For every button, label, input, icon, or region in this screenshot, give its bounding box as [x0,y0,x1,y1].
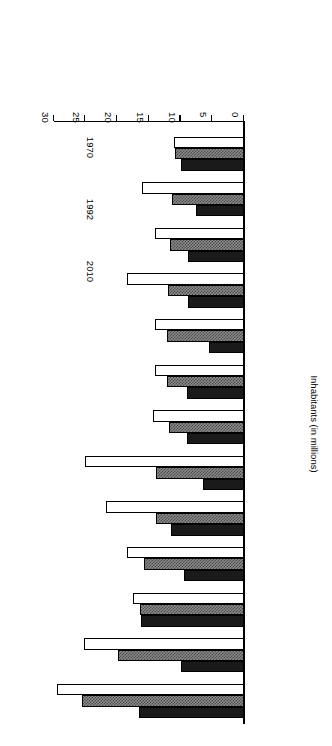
bar-group: New York [44,593,244,627]
bar-2010 [153,410,244,421]
legend-swatch-2010 [84,290,100,306]
bar-1970 [188,296,244,307]
bar-1970 [188,251,244,262]
bar-1970 [187,433,244,444]
bar-1992 [167,376,244,387]
legend: 2010 1992 1970 [14,120,100,306]
bar-1992 [157,513,245,524]
bar-1970 [141,615,244,626]
legend-label-1992: 1992 [85,199,96,220]
bar-2010 [84,638,244,649]
bar-1970 [209,342,244,353]
bar-1970 [197,205,245,216]
value-tick [116,115,117,121]
bar-group: Seoul [44,319,244,353]
bar-2010 [155,365,244,376]
bar-1992 [140,604,244,615]
bar-2010 [155,228,244,239]
bar-2010 [57,684,244,695]
bar-group: Buenos Aires [44,365,244,399]
bar-1970 [187,387,244,398]
value-tick-label: 5 [198,112,208,117]
bar-2010 [85,456,244,467]
bar-2010 [127,547,244,558]
bar-1992 [82,695,244,706]
value-tick-label: 0 [230,112,240,117]
bar-group: Tokyo [44,684,244,718]
value-tick-label: 15 [135,112,145,123]
bar-group: Los Angeles [44,410,244,444]
bar-1992 [172,194,244,205]
bar-1970 [139,707,244,718]
bar-2010 [142,182,244,193]
plot-area: 051015202530 TokyoSao PauloNew YorkMexic… [0,0,332,746]
bar-2010 [106,501,244,512]
bar-group: Shanghai [44,501,244,535]
bar-2010 [127,273,244,284]
bar-1970 [181,661,244,672]
legend-entry-1970: 1970 [14,120,100,182]
bar-group: Mexico City [44,547,244,581]
bar-1992 [167,330,244,341]
chart-figure: 051015202530 TokyoSao PauloNew YorkMexic… [0,0,332,746]
bar-1992 [157,467,245,478]
legend-entry-2010: 2010 [14,244,100,306]
legend-entry-1992: 1992 [14,182,100,244]
bar-1970 [184,570,244,581]
bar-1992 [118,650,244,661]
legend-swatch-1992 [84,228,100,244]
bar-group: Bombay [44,456,244,490]
value-axis-title: Inhabitants (in millions) [309,375,320,472]
legend-label-1970: 1970 [85,137,96,158]
bar-1970 [171,524,244,535]
bar-1992 [168,285,244,296]
bar-2010 [155,319,244,330]
bar-1992 [171,239,245,250]
legend-label-2010: 2010 [85,261,96,282]
legend-swatch-1970 [84,166,100,182]
value-tick-label: 20 [103,112,113,123]
bar-1970 [181,159,244,170]
bar-1992 [169,422,244,433]
value-tick [211,115,212,121]
bar-2010 [133,593,244,604]
bar-1992 [144,558,244,569]
bar-group: Sao Paulo [44,638,244,672]
bar-1992 [175,148,244,159]
bar-1970 [203,479,244,490]
value-tick-label: 10 [167,112,177,123]
bar-2010 [174,137,244,148]
value-tick [148,115,149,121]
value-tick [179,115,180,121]
value-tick [243,115,244,121]
